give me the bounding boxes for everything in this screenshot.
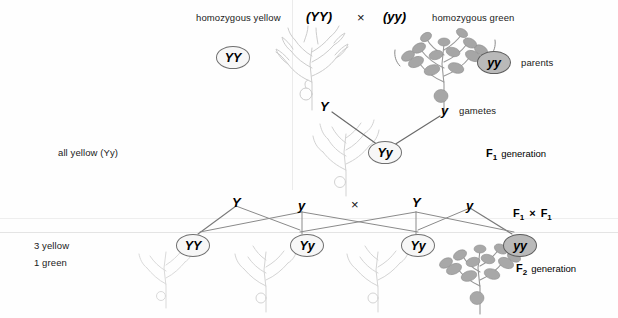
- oval-parent-YY: YY: [216, 46, 250, 69]
- oval-f1-Yy: Yy: [368, 141, 402, 164]
- f1-cross-prefix-a: F: [513, 207, 520, 219]
- genotype-parent-green: (yy): [383, 10, 406, 23]
- f1-generation-word: generation: [501, 148, 546, 159]
- oval-f2-yy: yy: [503, 234, 537, 257]
- f2-generation-prefix: F: [516, 262, 523, 274]
- gamete-y-parent-green: y: [441, 104, 448, 117]
- f1-cross-sub-a: 1: [520, 213, 524, 222]
- label-parents-row: parents: [521, 58, 553, 68]
- oval-f2-Yy-1: Yy: [290, 234, 324, 257]
- mendel-inheritance-diagram: homozygous yellow (YY) × (yy) homozygous…: [0, 0, 618, 318]
- label-f1-generation: F1generation: [486, 148, 546, 162]
- f1-generation-prefix: F: [486, 147, 493, 159]
- oval-f2-Yy-2: Yy: [401, 234, 435, 257]
- cross-symbol-parents: ×: [357, 11, 365, 24]
- cross-symbol-f1-gametes: ×: [351, 198, 359, 211]
- gamete-f1cross-Y-inner-right: Y: [412, 196, 421, 209]
- label-f1-cross-f1: F1×F1: [513, 208, 552, 222]
- scan-hairline-top: [0, 232, 618, 233]
- page-seam-artifact: [292, 0, 293, 190]
- label-all-yellow-Yy: all yellow (Yy): [58, 148, 118, 158]
- gamete-f1cross-Y-left: Y: [232, 196, 241, 209]
- label-homozygous-green: homozygous green: [432, 13, 514, 23]
- label-f2-generation: F2generation: [516, 263, 576, 277]
- f2-generation-subscript: 2: [523, 268, 527, 277]
- f1-cross-times: ×: [529, 207, 535, 219]
- f2-generation-word: generation: [531, 263, 576, 274]
- gamete-f1cross-y-right: y: [466, 199, 473, 212]
- gamete-Y-parent-yellow: Y: [320, 100, 329, 113]
- label-f2-ratio-yellow: 3 yellow: [34, 241, 69, 251]
- label-gametes-row: gametes: [459, 106, 496, 116]
- gamete-f1cross-y-inner-left: y: [298, 199, 305, 212]
- oval-f2-YY: YY: [176, 234, 210, 257]
- f1-cross-sub-b: 1: [547, 213, 551, 222]
- oval-parent-yy: yy: [477, 51, 511, 74]
- plant-illustration-parent-yellow: [258, 24, 368, 112]
- f1-generation-subscript: 1: [493, 153, 497, 162]
- label-homozygous-yellow: homozygous yellow: [196, 13, 281, 23]
- label-f2-ratio-green: 1 green: [34, 258, 67, 268]
- genotype-parent-yellow: (YY): [306, 10, 332, 23]
